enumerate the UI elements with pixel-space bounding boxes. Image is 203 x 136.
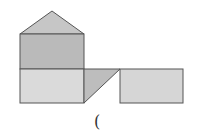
roof-triangle xyxy=(20,11,84,34)
right-rectangle xyxy=(120,69,183,103)
upper-rectangle xyxy=(20,34,84,69)
connector-triangle xyxy=(84,69,120,103)
lower-rectangle xyxy=(20,69,84,103)
net-diagram xyxy=(0,0,203,136)
caption-parenthesis: ( xyxy=(94,114,100,130)
